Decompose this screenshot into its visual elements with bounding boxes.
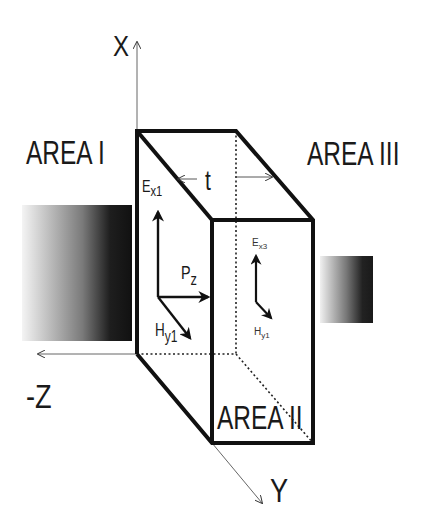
slab-diagram: t X -Z Y AREA I AREA III AREA II Ex1 Pz …	[0, 0, 430, 532]
thickness-indicator	[178, 177, 272, 179]
area-3-label: AREA III	[307, 134, 399, 172]
area-2-label: AREA II	[217, 398, 303, 436]
e-x1-label: Ex1	[142, 178, 162, 200]
neg-z-axis-label: -Z	[26, 377, 52, 416]
y-axis-line	[212, 443, 262, 503]
h-y1-area3-label: Hy1	[254, 326, 270, 340]
thickness-label: t	[205, 165, 211, 196]
incident-wave-gradient	[22, 205, 132, 341]
e-x3-label: Ex3	[252, 237, 268, 251]
h-y1-label: Hy1	[155, 320, 178, 345]
area3-vectors	[256, 256, 271, 318]
slab-box	[137, 131, 313, 443]
area-1-label: AREA I	[26, 133, 105, 171]
h-y1-area3-arrow	[256, 302, 271, 318]
y-axis-label: Y	[270, 471, 288, 510]
slab-hidden-edges	[137, 131, 313, 443]
transmitted-wave-gradient	[320, 256, 373, 323]
x-axis-label: X	[113, 28, 129, 62]
p-z-label: Pz	[181, 262, 197, 288]
